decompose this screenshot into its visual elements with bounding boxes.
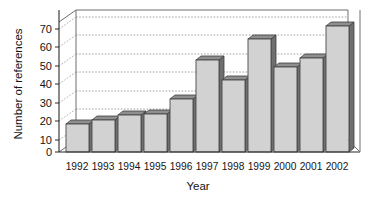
y-tick-label-0: 0	[46, 146, 52, 158]
bar-2002-top	[326, 22, 354, 26]
y-tick-label-70: 70	[40, 23, 52, 35]
y-tick-label-60: 60	[40, 41, 52, 53]
y-tick-label-40: 40	[40, 78, 52, 90]
x-tick-label-1997: 1997	[196, 161, 219, 172]
y-tick-label-30: 30	[40, 97, 52, 109]
bar-2000-front	[274, 67, 297, 152]
bar-1996[interactable]	[170, 95, 198, 152]
bar-1995-top	[144, 110, 172, 114]
y-tick-label-50: 50	[40, 60, 52, 72]
chart-container: 0 10 20 30 40 50 60 70 1992 1993 1994 19…	[0, 0, 384, 216]
bar-2001-front	[300, 58, 323, 152]
bar-1996-top	[170, 95, 198, 99]
y-tick-marks	[55, 29, 59, 152]
x-tick-label-1996: 1996	[170, 161, 193, 172]
bar-1992-front	[66, 124, 89, 152]
bar-2001-top	[300, 54, 328, 58]
bar-1998-front	[222, 80, 245, 152]
bar-1997-front	[196, 60, 219, 152]
bar-1996-front	[170, 99, 193, 152]
bar-1992[interactable]	[66, 120, 94, 152]
x-tick-label-2000: 2000	[274, 161, 297, 172]
bar-1994-front	[118, 115, 141, 152]
bar-2002-front	[326, 26, 349, 152]
bar-2001[interactable]	[300, 54, 328, 152]
y-tick-label-10: 10	[40, 134, 52, 146]
x-tick-label-1992: 1992	[66, 161, 89, 172]
bar-1995[interactable]	[144, 110, 172, 152]
bar-1992-top	[66, 120, 94, 124]
bar-1994[interactable]	[118, 111, 146, 152]
bar-1999[interactable]	[248, 35, 276, 152]
bar-1998-top	[222, 76, 250, 80]
x-tick-label-1995: 1995	[144, 161, 167, 172]
bar-2002[interactable]	[326, 22, 354, 152]
x-tick-label-1993: 1993	[92, 161, 115, 172]
x-tick-label-2001: 2001	[300, 161, 323, 172]
x-tick-label-2002: 2002	[326, 161, 349, 172]
x-tick-label-1998: 1998	[222, 161, 245, 172]
x-tick-label-1999: 1999	[248, 161, 271, 172]
bar-2002-side	[349, 22, 354, 152]
bar-1993[interactable]	[92, 116, 120, 152]
bar-1999-top	[248, 35, 276, 39]
bar-1993-top	[92, 116, 120, 120]
bar-1999-front	[248, 39, 271, 152]
y-tick-labels: 0 10 20 30 40 50 60 70	[40, 23, 52, 158]
bar-2000[interactable]	[274, 63, 302, 152]
bar-1995-front	[144, 114, 167, 152]
bar-1997-top	[196, 56, 224, 60]
x-tick-label-1994: 1994	[118, 161, 141, 172]
y-tick-label-20: 20	[40, 115, 52, 127]
x-axis-title: Year	[186, 180, 209, 192]
y-axis-title: Number of references	[12, 28, 24, 139]
bar-1993-front	[92, 120, 115, 152]
bar-1997[interactable]	[196, 56, 224, 152]
bar-1994-top	[118, 111, 146, 115]
bar-1998[interactable]	[222, 76, 250, 152]
x-tick-labels: 1992 1993 1994 1995 1996 1997 1998 1999 …	[66, 161, 349, 172]
bar-chart: 0 10 20 30 40 50 60 70 1992 1993 1994 19…	[0, 0, 384, 216]
bar-2000-top	[274, 63, 302, 67]
